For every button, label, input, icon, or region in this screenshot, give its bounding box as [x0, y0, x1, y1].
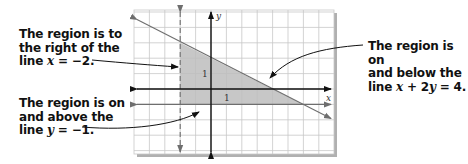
callout-text: = −2.	[54, 54, 94, 68]
y-axis-label: y	[215, 11, 222, 21]
callout-variable: y	[429, 80, 436, 94]
x-axis-label: x	[326, 93, 331, 103]
callout-text: line	[19, 123, 47, 137]
callout-line: and below the	[368, 67, 468, 81]
callout-line: and above the	[19, 111, 125, 125]
callout-line: line x + 2y = 4.	[368, 81, 468, 95]
callout-text: = 4.	[436, 80, 466, 94]
callout-y-eq-neg1: The region is on and above the line y = …	[19, 97, 125, 138]
callout-x-plus-2y-eq-4: The region is on and below the line x + …	[368, 40, 468, 94]
callout-text: line	[19, 54, 47, 68]
callout-text: line	[368, 80, 396, 94]
callout-x-eq-neg2: The region is to the right of the line x…	[19, 28, 122, 69]
callout-line: The region is to	[19, 28, 122, 42]
callout-text: + 2	[403, 80, 429, 94]
callout-variable: y	[47, 123, 54, 137]
callout-line: The region is on	[368, 40, 468, 67]
callout-line: the right of the	[19, 42, 122, 56]
y-tick-label: 1	[202, 69, 208, 79]
callout-text: = −1.	[54, 123, 94, 137]
callout-line: line y = −1.	[19, 124, 125, 138]
callout-line: The region is on	[19, 97, 125, 111]
x-tick-label: 1	[224, 93, 230, 103]
callout-line: line x = −2.	[19, 55, 122, 69]
